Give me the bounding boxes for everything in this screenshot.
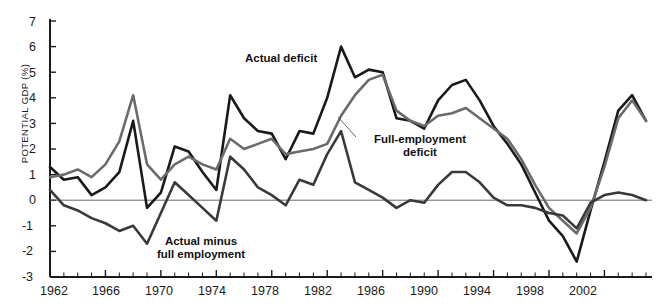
chart-plot-area xyxy=(0,0,659,308)
chart-container: POTENTIAL GDP (%) 7 6 5 4 3 2 1 0 -1 -2 … xyxy=(0,0,659,308)
series-line-3 xyxy=(50,131,646,244)
axis-layer xyxy=(50,19,652,277)
series-layer xyxy=(50,47,646,262)
